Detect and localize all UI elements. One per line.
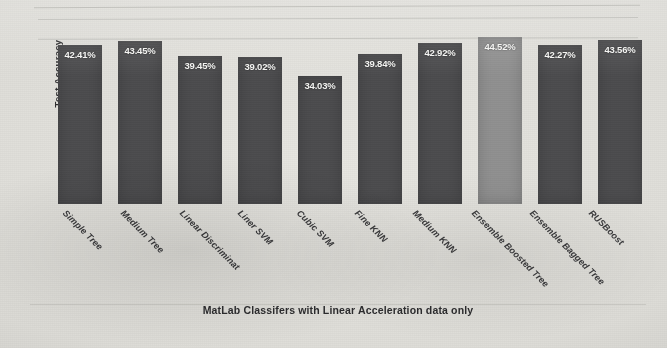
bar-texture — [538, 45, 582, 204]
bar-texture — [178, 56, 222, 204]
x-axis-tick-labels: Simple TreeMedium TreeLinear Discriminat… — [58, 206, 642, 301]
x-tick-slot: Ensemble Boosted Tree — [467, 206, 511, 301]
bar-value-label: 42.92% — [424, 47, 455, 58]
x-axis-title: MatLab Classifers with Linear Accelerati… — [30, 304, 646, 316]
bar[interactable]: 42.27% — [538, 45, 582, 204]
bar-chart: Test Accuracy 42.41%43.45%39.45%39.02%34… — [30, 4, 646, 322]
bar-value-label: 43.45% — [124, 45, 155, 56]
bar-slot: 39.84% — [358, 16, 402, 204]
x-tick-slot: RUSBoost — [584, 206, 628, 301]
x-tick-label: Fine KNN — [353, 208, 389, 244]
bar-value-label: 39.84% — [364, 58, 395, 69]
x-tick-slot: Cubic SVM — [292, 206, 336, 301]
bar-slot: 42.41% — [58, 16, 102, 204]
x-tick-slot: Medium Tree — [116, 206, 160, 301]
x-tick-slot: Liner SVM — [233, 206, 277, 301]
bar[interactable]: 43.56% — [598, 40, 642, 204]
x-tick-slot: Fine KNN — [350, 206, 394, 301]
bar[interactable]: 39.45% — [178, 56, 222, 204]
bar-slot: 43.56% — [598, 16, 642, 204]
x-tick-label: Medium Tree — [119, 208, 166, 255]
x-tick-label: Medium KNN — [411, 208, 458, 255]
x-tick-label: Linear Discriminat — [178, 208, 242, 272]
bar-slot: 44.52% — [478, 16, 522, 204]
bar-texture — [118, 41, 162, 204]
bar-value-label: 39.45% — [184, 60, 215, 71]
bar-value-label: 42.27% — [544, 49, 575, 60]
x-tick-label: Simple Tree — [61, 208, 105, 252]
bar-texture — [58, 45, 102, 204]
bar[interactable]: 39.84% — [358, 54, 402, 204]
bar-texture — [358, 54, 402, 204]
bar[interactable]: 42.92% — [418, 43, 462, 204]
x-tick-slot: Linear Discriminat — [175, 206, 219, 301]
bar[interactable]: 44.52% — [478, 37, 522, 204]
bar[interactable]: 39.02% — [238, 57, 282, 204]
x-tick-slot: Medium KNN — [408, 206, 452, 301]
bar-texture — [478, 37, 522, 204]
x-tick-slot: Simple Tree — [58, 206, 102, 301]
bar-value-label: 42.41% — [64, 49, 95, 60]
x-tick-slot: Ensemble Bagged Tree — [525, 206, 569, 301]
bar-slot: 42.92% — [418, 16, 462, 204]
bar-slot: 34.03% — [298, 16, 342, 204]
bar-texture — [298, 76, 342, 204]
x-tick-label: Liner SVM — [236, 208, 275, 247]
bar-texture — [238, 57, 282, 204]
bar[interactable]: 43.45% — [118, 41, 162, 204]
bar[interactable]: 42.41% — [58, 45, 102, 204]
bar-texture — [418, 43, 462, 204]
x-tick-label: Cubic SVM — [295, 208, 336, 249]
bar-value-label: 44.52% — [484, 41, 515, 52]
plot-area: 42.41%43.45%39.45%39.02%34.03%39.84%42.9… — [58, 16, 642, 204]
chart-frame-top-border — [34, 5, 640, 9]
bar-value-label: 34.03% — [304, 80, 335, 91]
bar-series: 42.41%43.45%39.45%39.02%34.03%39.84%42.9… — [58, 16, 642, 204]
bar-slot: 39.45% — [178, 16, 222, 204]
bar-slot: 42.27% — [538, 16, 582, 204]
bar-texture — [598, 40, 642, 204]
bar-slot: 43.45% — [118, 16, 162, 204]
bar-slot: 39.02% — [238, 16, 282, 204]
bar-value-label: 39.02% — [244, 61, 275, 72]
x-tick-label: RUSBoost — [587, 208, 626, 247]
bar-value-label: 43.56% — [604, 44, 635, 55]
bar[interactable]: 34.03% — [298, 76, 342, 204]
